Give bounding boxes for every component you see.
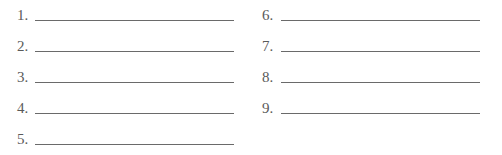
blank-answer-line[interactable]: [281, 113, 480, 114]
item-number: 4.: [17, 98, 28, 118]
blank-answer-line[interactable]: [281, 20, 480, 21]
list-item-5: 5.: [17, 129, 237, 149]
list-item-6: 6.: [262, 5, 482, 25]
list-item-9: 9.: [262, 98, 482, 118]
list-item-1: 1.: [17, 5, 237, 25]
list-item-4: 4.: [17, 98, 237, 118]
item-number: 5.: [17, 129, 28, 149]
list-item-2: 2.: [17, 36, 237, 56]
item-number: 1.: [17, 5, 28, 25]
list-item-8: 8.: [262, 67, 482, 87]
blank-answer-line[interactable]: [35, 82, 234, 83]
blank-answer-line[interactable]: [35, 144, 234, 145]
blank-answer-line[interactable]: [35, 20, 234, 21]
blank-answer-line[interactable]: [35, 51, 234, 52]
item-number: 3.: [17, 67, 28, 87]
item-number: 7.: [262, 36, 273, 56]
item-number: 8.: [262, 67, 273, 87]
item-number: 9.: [262, 98, 273, 118]
item-number: 2.: [17, 36, 28, 56]
blank-answer-line[interactable]: [35, 113, 234, 114]
blank-answer-line[interactable]: [281, 51, 480, 52]
item-number: 6.: [262, 5, 273, 25]
list-item-7: 7.: [262, 36, 482, 56]
blank-answer-line[interactable]: [281, 82, 480, 83]
list-item-3: 3.: [17, 67, 237, 87]
